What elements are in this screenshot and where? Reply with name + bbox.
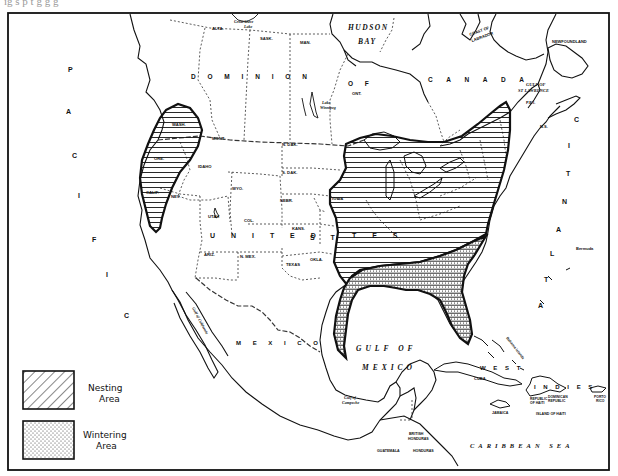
pacific-letter-f: F xyxy=(92,236,97,243)
label-ont: ONT. xyxy=(352,91,362,96)
west-indies-label-2: I N D I E S xyxy=(534,384,595,390)
pacific-letter-c2: C xyxy=(124,312,129,319)
label-texas: TEXAS xyxy=(286,262,300,267)
united-states-label-1: U N I T E D xyxy=(210,232,323,239)
west-indies-label-1: W E S T xyxy=(480,365,523,371)
label-sask: SASK. xyxy=(260,36,273,41)
label-newfoundland: NEWFOUNDLAND xyxy=(552,39,587,44)
hudson-bay-label-2: BAY xyxy=(357,37,377,46)
label-nev: NEV. xyxy=(171,194,180,199)
label-nebr: NEBR. xyxy=(280,198,293,203)
label-okla: OKLA. xyxy=(310,257,323,262)
atlantic-letter-t2: T xyxy=(544,276,549,283)
label-utah: UTAH xyxy=(208,214,219,219)
label-iowa: IOWA xyxy=(332,196,343,201)
label-n-dak: N. DAK. xyxy=(282,142,298,147)
hudson-bay-label-1: HUDSON xyxy=(347,23,389,32)
label-honduras: HONDURAS xyxy=(413,449,434,453)
label-mont: MONT. xyxy=(212,136,225,141)
label-jamaica: JAMAICA xyxy=(492,411,509,415)
atlantic-letter-a2: A xyxy=(538,302,543,309)
pacific-letter-p: P xyxy=(68,66,73,73)
caribbean-sea-label: CARIBBEAN SEA xyxy=(470,442,573,449)
pacific-letter-i: I xyxy=(78,192,80,199)
label-bermuda: Bermuda xyxy=(576,246,594,251)
atlantic-letter-l: L xyxy=(550,250,555,257)
label-british-honduras-1: BRITISH xyxy=(409,432,424,436)
united-states-label-2: S T xyxy=(310,234,342,241)
of-label: O F xyxy=(348,80,374,87)
range-map: P A C I F I C C I T N A L T A HUDSON BAY… xyxy=(0,0,618,476)
legend-wintering-line1: Wintering xyxy=(83,430,127,440)
label-calif: CALIF. xyxy=(146,190,159,195)
label-alta: ALTA. xyxy=(212,26,224,31)
nesting-swatch xyxy=(23,371,74,409)
label-ns: N.S. xyxy=(540,124,548,129)
label-s-dak: S. DAK. xyxy=(282,170,297,175)
pacific-letter-a: A xyxy=(66,108,71,115)
atlantic-letter-n: N xyxy=(562,198,567,205)
canada-label: C A N A D A xyxy=(428,76,530,83)
label-ariz: ARIZ. xyxy=(204,252,215,257)
dominion-label: D O M I N I O N xyxy=(191,73,312,80)
label-guatemala: GUATEMALA xyxy=(377,449,400,453)
label-kans: KANS. xyxy=(292,226,305,231)
gulf-st-lawrence-label-2: ST LAWRENCE xyxy=(518,88,549,93)
label-cuba: CUBA xyxy=(474,376,486,381)
label-republic-of-haiti-2: OF HAITI xyxy=(530,401,545,405)
label-n-mex: N. MEX. xyxy=(240,254,256,259)
legend-nesting-line1: Nesting xyxy=(88,383,122,393)
united-states-label-3: T E S xyxy=(352,232,405,239)
label-col: COL. xyxy=(244,218,254,223)
pacific-letter-c: C xyxy=(72,152,77,159)
atlantic-letter-c: C xyxy=(574,116,579,123)
atlantic-letter-a: A xyxy=(556,226,561,233)
label-dominican-republic-2: REPUBLIC xyxy=(548,399,566,403)
gulf-of-mexico-label-1: GULF OF xyxy=(356,344,417,353)
label-wyo: WYO. xyxy=(232,186,243,191)
mexico-label: M E X I C O xyxy=(236,340,323,346)
label-ore: ORE. xyxy=(154,156,164,161)
label-idaho: IDAHO xyxy=(198,164,212,169)
atlantic-letter-i: I xyxy=(568,142,570,149)
legend-nesting-line2: Area xyxy=(99,394,120,404)
wintering-swatch xyxy=(23,421,74,459)
pacific-letter-i2: I xyxy=(106,271,108,278)
label-man: MAN. xyxy=(300,40,311,45)
gulf-of-campeche-label-2: Campeche xyxy=(342,400,360,405)
label-great-slave-lake-2: Lake xyxy=(243,24,252,29)
atlantic-letter-t: T xyxy=(566,170,571,177)
label-wash: WASH. xyxy=(172,122,186,127)
label-porto-rico-2: RICO xyxy=(596,399,605,403)
label-lake-winnipeg-2: Winnipeg xyxy=(320,105,336,110)
gulf-of-mexico-label-2: MEXICO xyxy=(361,363,416,372)
label-pei: P.E.I. xyxy=(526,100,535,105)
label-island-of-haiti: ISLAND OF HAITI xyxy=(536,412,566,416)
label-british-honduras-2: HONDURAS xyxy=(408,437,429,441)
legend-wintering-line2: Area xyxy=(96,441,117,451)
